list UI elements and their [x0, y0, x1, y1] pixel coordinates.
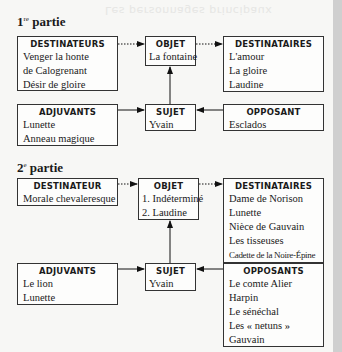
diagram-arrows: [0, 0, 342, 352]
